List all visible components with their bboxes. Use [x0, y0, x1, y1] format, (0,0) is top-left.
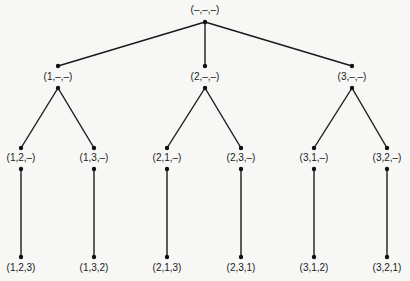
leaf-node-label: (2,1,3) — [153, 262, 182, 273]
edge-level1-to-level2 — [314, 88, 352, 148]
level2-node-bottom-dot — [165, 167, 169, 171]
root-node-label: (–,–,–) — [191, 4, 220, 15]
level1-node-label: (2,–,–) — [191, 71, 220, 82]
permutation-tree-diagram: (–,–,–)(1,–,–)(2,–,–)(3,–,–)(1,2,–)(1,3,… — [0, 0, 410, 281]
edge-level1-to-level2 — [205, 88, 241, 148]
edge-root-to-level1 — [58, 22, 205, 66]
leaf-node-dot — [239, 255, 243, 259]
level2-node-bottom-dot — [19, 167, 23, 171]
leaf-node-label: (1,2,3) — [7, 262, 36, 273]
level1-node-bottom-dot — [56, 86, 60, 90]
tree-nodes: (–,–,–)(1,–,–)(2,–,–)(3,–,–)(1,2,–)(1,3,… — [7, 4, 402, 273]
leaf-node-label: (1,3,2) — [80, 262, 109, 273]
level2-node-label: (3,2,–) — [373, 152, 402, 163]
level2-node-label: (3,1,–) — [300, 152, 329, 163]
leaf-node-dot — [312, 255, 316, 259]
leaf-node-label: (3,1,2) — [300, 262, 329, 273]
level2-node-dot — [239, 146, 243, 150]
level1-node-label: (3,–,–) — [338, 71, 367, 82]
level2-node-dot — [385, 146, 389, 150]
leaf-node-label: (2,3,1) — [227, 262, 256, 273]
level2-node-dot — [19, 146, 23, 150]
level1-node-bottom-dot — [203, 86, 207, 90]
level1-node-dot — [350, 64, 354, 68]
level2-node-label: (2,3,–) — [227, 152, 256, 163]
root-node-dot — [203, 20, 207, 24]
edge-level1-to-level2 — [167, 88, 205, 148]
level2-node-dot — [165, 146, 169, 150]
leaf-node-dot — [92, 255, 96, 259]
level2-node-dot — [312, 146, 316, 150]
edge-level1-to-level2 — [58, 88, 94, 148]
level1-node-label: (1,–,–) — [44, 71, 73, 82]
edge-level1-to-level2 — [21, 88, 58, 148]
leaf-node-dot — [19, 255, 23, 259]
tree-edges — [21, 22, 387, 257]
edge-level1-to-level2 — [352, 88, 387, 148]
level2-node-label: (2,1,–) — [153, 152, 182, 163]
edge-root-to-level1 — [205, 22, 352, 66]
level2-node-bottom-dot — [239, 167, 243, 171]
level2-node-bottom-dot — [385, 167, 389, 171]
level2-node-bottom-dot — [312, 167, 316, 171]
level2-node-label: (1,2,–) — [7, 152, 36, 163]
level2-node-bottom-dot — [92, 167, 96, 171]
level2-node-label: (1,3,–) — [80, 152, 109, 163]
level1-node-dot — [56, 64, 60, 68]
leaf-node-dot — [165, 255, 169, 259]
level1-node-dot — [203, 64, 207, 68]
level1-node-bottom-dot — [350, 86, 354, 90]
leaf-node-dot — [385, 255, 389, 259]
level2-node-dot — [92, 146, 96, 150]
leaf-node-label: (3,2,1) — [373, 262, 402, 273]
